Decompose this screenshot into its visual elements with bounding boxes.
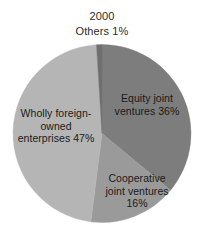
pie-graphic [0,0,204,238]
pie-slice-wholly-foreign-owned-enterprises [13,45,102,222]
pie-svg [0,0,204,238]
pie-chart-figure: 2000 Others 1% Equity joint ventures 36%… [0,0,204,238]
pie-slices [13,44,191,222]
